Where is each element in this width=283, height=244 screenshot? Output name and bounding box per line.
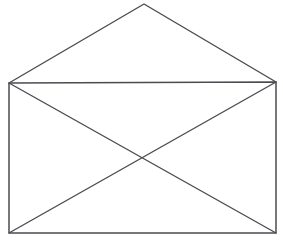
drawing-background <box>0 0 283 244</box>
envelope-figure: Envelope Simple black-and-white line dra… <box>0 0 283 244</box>
envelope-drawing-canvas <box>0 0 283 244</box>
